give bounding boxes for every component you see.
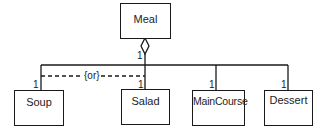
class-maincourse-name: MainCourse: [193, 95, 248, 107]
class-meal-name: Meal: [134, 13, 158, 25]
class-soup-name: Soup: [26, 96, 52, 108]
multiplicity-salad: 1: [138, 80, 144, 90]
multiplicity-meal: 1: [137, 51, 143, 61]
multiplicity-dessert: 1: [281, 80, 287, 90]
class-salad-name: Salad: [131, 95, 159, 107]
class-dessert: Dessert: [264, 90, 313, 126]
class-salad: Salad: [121, 89, 170, 125]
class-maincourse: MainCourse: [192, 90, 245, 126]
or-constraint-label: {or}: [84, 71, 100, 81]
class-dessert-name: Dessert: [270, 94, 308, 106]
class-meal: Meal: [120, 3, 171, 39]
multiplicity-soup: 1: [33, 80, 39, 90]
multiplicity-maincourse: 1: [209, 80, 215, 90]
class-soup: Soup: [14, 90, 64, 126]
